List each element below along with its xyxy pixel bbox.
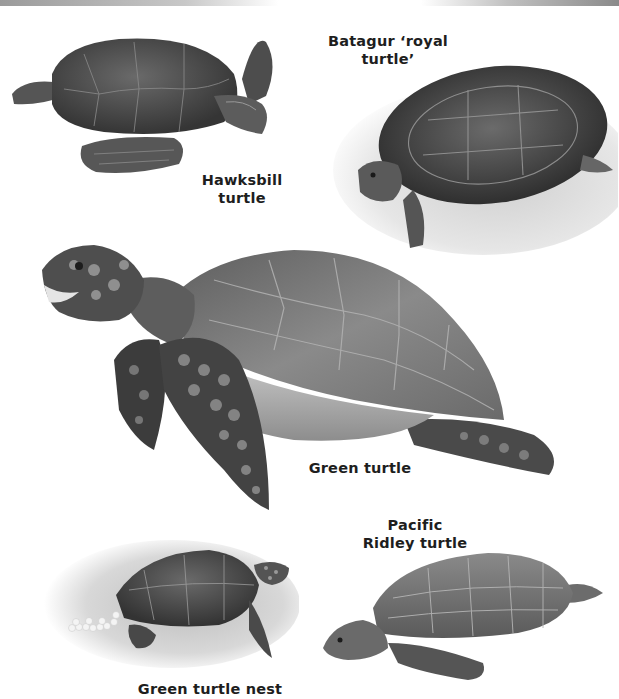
batagur-royal-turtle-illustration bbox=[318, 60, 618, 255]
green-turtle-nest-illustration bbox=[44, 540, 299, 668]
hawksbill-turtle-illustration bbox=[4, 34, 289, 179]
green-turtle-label: Green turtle bbox=[300, 459, 420, 477]
green-turtle-nest-label: Green turtle nest bbox=[110, 680, 310, 698]
green-turtle-illustration bbox=[34, 240, 574, 520]
pacific-ridley-turtle-label: Pacific Ridley turtle bbox=[345, 516, 485, 552]
hawksbill-turtle-label: Hawksbill turtle bbox=[192, 171, 292, 207]
page-top-edge bbox=[0, 0, 619, 6]
pacific-ridley-turtle-illustration bbox=[318, 548, 608, 688]
